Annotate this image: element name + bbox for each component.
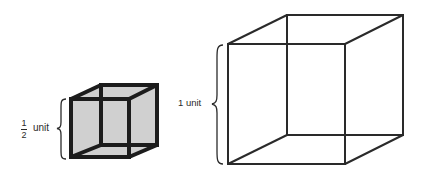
large-cube [228,15,403,164]
cube-diagram [0,0,424,176]
half-fraction-label: 1 2 [21,119,27,140]
fraction-denominator: 2 [21,131,26,140]
large-cube-unit-label: 1 unit [178,98,201,108]
fraction-numerator: 1 [21,119,26,128]
small-cube-brace [57,99,66,159]
large-cube-brace [212,45,223,164]
small-cube-unit-label: unit [33,123,49,133]
small-cube [71,85,157,157]
